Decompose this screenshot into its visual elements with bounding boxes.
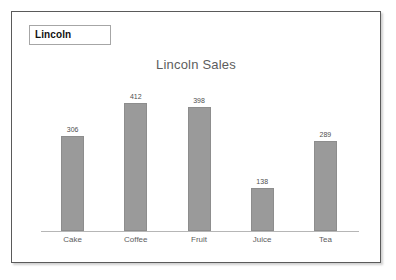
bar-coffee[interactable] xyxy=(124,103,147,231)
bar-value-label: 138 xyxy=(256,178,268,185)
bar-value-label: 306 xyxy=(67,126,79,133)
bars-container: 306 412 398 138 289 xyxy=(41,84,357,231)
category-label-cake: Cake xyxy=(41,236,104,244)
category-label-coffee: Coffee xyxy=(104,236,167,244)
category-label-fruit: Fruit xyxy=(167,236,230,244)
category-axis-line xyxy=(41,231,359,232)
chart-title: Lincoln Sales xyxy=(12,57,380,72)
bar-value-label: 289 xyxy=(320,131,332,138)
bar-group-fruit[interactable]: 398 xyxy=(167,84,230,231)
plot-area: 306 412 398 138 289 xyxy=(41,84,357,231)
bar-group-juice[interactable]: 138 xyxy=(231,84,294,231)
bar-value-label: 398 xyxy=(193,97,205,104)
bar-value-label: 412 xyxy=(130,93,142,100)
bar-group-tea[interactable]: 289 xyxy=(294,84,357,231)
category-label-tea: Tea xyxy=(294,236,357,244)
slide-frame: Lincoln Lincoln Sales 306 412 398 1 xyxy=(11,11,381,263)
category-label-juice: Juice xyxy=(231,236,294,244)
bar-chart[interactable]: Lincoln Sales 306 412 398 138 xyxy=(12,12,380,262)
category-axis-labels: Cake Coffee Fruit Juice Tea xyxy=(41,236,357,244)
bar-group-coffee[interactable]: 412 xyxy=(104,84,167,231)
bar-fruit[interactable] xyxy=(188,107,211,231)
bar-group-cake[interactable]: 306 xyxy=(41,84,104,231)
bar-juice[interactable] xyxy=(251,188,274,231)
bar-tea[interactable] xyxy=(314,141,337,231)
bar-cake[interactable] xyxy=(61,136,84,231)
